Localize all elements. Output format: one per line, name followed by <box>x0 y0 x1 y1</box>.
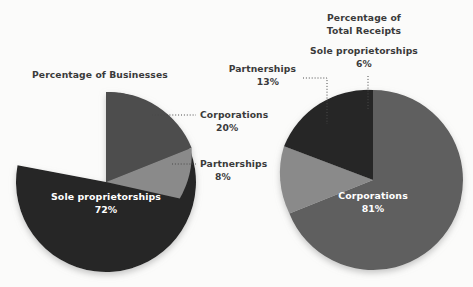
left-callout-partnerships-value: 8% <box>215 171 231 182</box>
right-chart-title-line2: Total Receipts <box>327 25 402 36</box>
pie-charts-figure: Percentage of Businesses Sole proprietor… <box>0 0 473 287</box>
left-chart-title: Percentage of Businesses <box>32 69 168 80</box>
right-inside-label-name: Corporations <box>338 190 408 201</box>
right-callout-sole-proprietorships-value: 6% <box>356 58 372 69</box>
right-callout-partnerships-name: Partnerships <box>229 63 297 74</box>
right-callout-sole-proprietorships-name: Sole proprietorships <box>310 45 418 56</box>
left-inside-label-name: Sole proprietorships <box>51 191 161 202</box>
left-callout-corporations-value: 20% <box>216 122 238 133</box>
right-callout-partnerships-value: 13% <box>257 76 279 87</box>
left-callout-corporations-name: Corporations <box>200 109 269 120</box>
left-inside-label-value: 72% <box>95 204 118 215</box>
chart-canvas: Percentage of Businesses Sole proprietor… <box>0 0 473 287</box>
right-chart-title-line1: Percentage of <box>327 12 402 23</box>
left-callout-partnerships-name: Partnerships <box>200 158 268 169</box>
right-inside-label-value: 81% <box>362 203 385 214</box>
